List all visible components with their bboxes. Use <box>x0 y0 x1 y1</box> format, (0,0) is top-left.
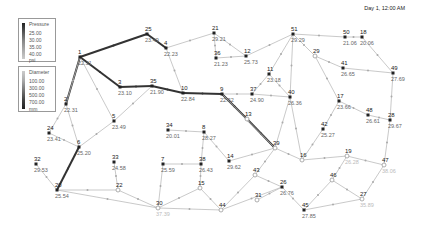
junction-node[interactable] <box>273 146 277 150</box>
flow-arrow-icon <box>367 70 369 72</box>
network-canvas[interactable]: 2523.49122.31422.23323.103521.901022.842… <box>0 0 423 231</box>
node-id-label: 15 <box>198 180 205 186</box>
junction-node[interactable] <box>253 173 257 177</box>
flow-arrow-icon <box>260 83 262 85</box>
flow-arrow-icon <box>372 181 374 183</box>
flow-arrow-icon <box>279 85 281 87</box>
junction-node[interactable] <box>300 158 304 162</box>
junction-node[interactable] <box>228 160 231 163</box>
junction-node[interactable] <box>313 54 317 58</box>
flow-arrow-icon <box>346 189 348 191</box>
junction-node[interactable] <box>78 146 81 149</box>
pressure-legend-item: 35.00 <box>29 44 42 50</box>
junction-node[interactable] <box>361 36 364 39</box>
node-id-label: 17 <box>337 93 344 99</box>
flow-arrow-icon <box>63 139 65 141</box>
junction-node[interactable] <box>289 96 292 99</box>
junction-node[interactable] <box>119 86 122 89</box>
node-pressure-label: 20.06 <box>360 40 374 46</box>
junction-node[interactable] <box>116 188 120 192</box>
junction-node[interactable] <box>251 93 254 96</box>
flow-arrow-icon <box>167 89 169 91</box>
node-id-label: 16 <box>300 152 307 158</box>
junction-node[interactable] <box>392 72 395 75</box>
junction-node[interactable] <box>165 47 168 50</box>
flow-arrow-icon <box>202 147 204 149</box>
node-id-label: 46 <box>330 172 337 178</box>
flow-arrow-icon <box>160 185 162 187</box>
junction-node[interactable] <box>113 161 116 164</box>
junction-node[interactable] <box>382 163 386 167</box>
junction-node[interactable] <box>367 114 370 117</box>
junction-node[interactable] <box>221 93 224 96</box>
junction-node[interactable] <box>162 163 165 166</box>
junction-node[interactable] <box>167 129 170 132</box>
flow-arrow-icon <box>200 175 202 177</box>
diameter-legend: Diameter 100.00 300.00 500.00 700.00 mm <box>18 66 56 112</box>
node-pressure-label: 23.49 <box>112 124 126 130</box>
junction-node[interactable] <box>56 189 59 192</box>
junction-node[interactable] <box>245 117 249 121</box>
junction-node[interactable] <box>65 103 68 106</box>
node-pressure-label: 21.06 <box>343 40 357 46</box>
flow-arrow-icon <box>386 142 388 144</box>
node-id-label: 8 <box>202 124 206 130</box>
node-id-label: 11 <box>267 66 274 72</box>
junction-node[interactable] <box>245 55 248 58</box>
junction-node[interactable] <box>48 132 51 135</box>
junction-node[interactable] <box>200 163 203 166</box>
node-id-label: 42 <box>321 121 328 127</box>
junction-node[interactable] <box>219 208 223 212</box>
flow-arrow-icon <box>377 54 379 56</box>
node-id-label: 3 <box>118 79 122 85</box>
junction-node[interactable] <box>182 92 185 95</box>
junction-node[interactable] <box>389 119 392 122</box>
junction-node[interactable] <box>281 186 284 189</box>
node-id-label: 37 <box>250 86 257 92</box>
junction-node[interactable] <box>330 178 334 182</box>
flow-arrow-icon <box>295 128 297 130</box>
junction-node[interactable] <box>35 163 38 166</box>
junction-node[interactable] <box>113 120 116 123</box>
flow-arrow-icon <box>113 45 115 47</box>
flow-arrow-icon <box>328 61 330 63</box>
junction-node[interactable] <box>203 131 206 134</box>
node-pressure-label: 24.58 <box>112 165 126 171</box>
node-id-label: 13 <box>245 111 252 117</box>
node-pressure-label: 28.27 <box>202 135 216 141</box>
flow-arrow-icon <box>330 114 332 116</box>
junction-node[interactable] <box>268 73 271 76</box>
junction-node[interactable] <box>344 36 347 39</box>
junction-node[interactable] <box>303 209 306 212</box>
node-id-label: 9 <box>220 86 224 92</box>
junction-node[interactable] <box>79 56 82 59</box>
node-pressure-label: 21.23 <box>214 61 228 67</box>
junction-node[interactable] <box>342 67 345 70</box>
node-id-label: 36 <box>214 50 221 56</box>
node-id-label: 33 <box>112 154 119 160</box>
junction-node[interactable] <box>322 128 325 131</box>
junction-node[interactable] <box>360 197 364 201</box>
junction-node[interactable] <box>255 198 259 202</box>
junction-node[interactable] <box>345 154 349 158</box>
node-pressure-label: 25.27 <box>321 132 335 138</box>
node-id-label: 31 <box>255 192 262 198</box>
node-pressure-label: 29.53 <box>34 167 48 173</box>
flow-arrow-icon <box>353 36 355 38</box>
junction-node[interactable] <box>198 186 202 190</box>
junction-node[interactable] <box>151 85 154 88</box>
flow-arrow-icon <box>303 44 305 46</box>
flow-arrow-icon <box>251 198 253 200</box>
node-pressure-label: 24.90 <box>250 97 264 103</box>
node-id-label: 1 <box>78 49 82 55</box>
node-pressure-label: 27.69 <box>391 76 405 82</box>
pressure-color-bar <box>22 23 25 59</box>
junction-node[interactable] <box>215 57 218 60</box>
junction-node[interactable] <box>146 33 149 36</box>
junction-node[interactable] <box>156 206 160 210</box>
junction-node[interactable] <box>292 33 295 36</box>
junction-node[interactable] <box>338 100 341 103</box>
junction-node[interactable] <box>213 32 216 35</box>
flow-arrow-icon <box>365 160 367 162</box>
node-id-label: 35 <box>150 78 157 84</box>
